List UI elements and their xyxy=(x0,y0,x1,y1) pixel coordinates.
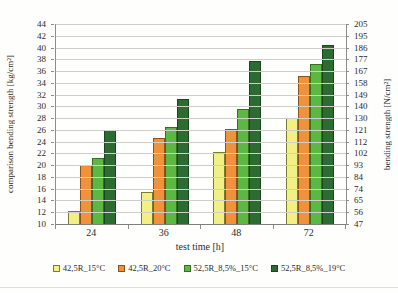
legend-label: 42,5R_20°C xyxy=(128,264,170,273)
right-y-tick-label: 74 xyxy=(354,184,363,193)
right-y-tick-mark xyxy=(346,212,349,213)
right-y-tick-mark xyxy=(346,165,349,166)
right-y-tick-label: 102 xyxy=(354,149,368,158)
gridline xyxy=(56,212,346,213)
gridline xyxy=(56,59,346,60)
left-y-axis: 444240383634323028262422201816141210 xyxy=(0,24,55,224)
gridline xyxy=(56,189,346,190)
left-y-tick-label: 36 xyxy=(37,67,46,76)
left-y-tick-label: 30 xyxy=(37,102,46,111)
bar-group xyxy=(129,24,202,224)
legend-label: 42,5R_15°C xyxy=(63,264,105,273)
right-y-tick-mark xyxy=(346,71,349,72)
x-category-label: 24 xyxy=(55,228,128,238)
x-axis-category-labels: 24364872 xyxy=(55,228,345,238)
right-y-tick-label: 93 xyxy=(354,161,363,170)
bar xyxy=(286,118,298,224)
gridline xyxy=(56,95,346,96)
legend-label: 52,5R_8,5%_15°C xyxy=(194,264,258,273)
right-y-tick-mark xyxy=(346,189,349,190)
left-y-tick-label: 18 xyxy=(37,172,46,181)
right-y-axis: 2051951861771671581491401301211121029384… xyxy=(346,24,398,224)
bar xyxy=(141,192,153,224)
x-axis-title: test time [h] xyxy=(55,242,345,252)
x-category-label: 36 xyxy=(128,228,201,238)
scan-artifact-line xyxy=(0,287,398,288)
x-category-label: 72 xyxy=(273,228,346,238)
right-y-tick-mark xyxy=(346,59,349,60)
bar xyxy=(237,109,249,224)
legend-label: 52,5R_8,5%_19°C xyxy=(281,264,345,273)
left-y-tick-mark xyxy=(51,212,54,213)
right-y-tick-mark xyxy=(346,224,349,225)
right-y-tick-label: 149 xyxy=(354,90,368,99)
right-y-tick-label: 205 xyxy=(354,20,368,29)
left-y-tick-label: 20 xyxy=(37,161,46,170)
left-y-tick-mark xyxy=(51,71,54,72)
bar-group xyxy=(201,24,274,224)
right-y-tick-mark xyxy=(346,95,349,96)
right-y-tick-label: 56 xyxy=(354,208,363,217)
x-axis-tick-mark xyxy=(128,225,129,229)
x-axis-tick-mark xyxy=(200,225,201,229)
left-y-tick-mark xyxy=(51,200,54,201)
left-y-tick-mark xyxy=(51,177,54,178)
left-y-tick-label: 10 xyxy=(37,220,46,229)
right-y-tick-mark xyxy=(346,153,349,154)
gridline xyxy=(56,48,346,49)
right-y-tick-label: 112 xyxy=(354,137,367,146)
gridline xyxy=(56,130,346,131)
left-y-tick-mark xyxy=(51,24,54,25)
left-y-tick-mark xyxy=(51,130,54,131)
bar xyxy=(298,76,310,224)
left-y-tick-mark xyxy=(51,95,54,96)
gridline xyxy=(56,83,346,84)
right-y-tick-mark xyxy=(346,200,349,201)
left-y-tick-mark xyxy=(51,118,54,119)
gridline xyxy=(56,153,346,154)
left-y-tick-mark xyxy=(51,189,54,190)
gridline xyxy=(56,71,346,72)
x-category-label: 48 xyxy=(200,228,273,238)
x-axis-tick-mark xyxy=(55,225,56,229)
gridline xyxy=(56,165,346,166)
left-y-tick-mark xyxy=(51,59,54,60)
left-y-tick-label: 28 xyxy=(37,114,46,123)
left-y-tick-label: 34 xyxy=(37,78,46,87)
gridline xyxy=(56,118,346,119)
right-y-tick-label: 158 xyxy=(354,78,368,87)
gridline xyxy=(56,142,346,143)
chart-figure: comparison bending strength [kg/cm²] ben… xyxy=(0,0,398,293)
left-y-tick-label: 22 xyxy=(37,149,46,158)
bar-group xyxy=(274,24,347,224)
legend-swatch xyxy=(184,265,191,272)
left-y-tick-label: 24 xyxy=(37,137,46,146)
right-y-tick-mark xyxy=(346,83,349,84)
gridline xyxy=(56,177,346,178)
right-y-tick-label: 167 xyxy=(354,67,368,76)
legend: 42,5R_15°C42,5R_20°C52,5R_8,5%_15°C52,5R… xyxy=(0,264,398,273)
left-y-tick-mark xyxy=(51,153,54,154)
bar xyxy=(80,165,92,224)
bar-group xyxy=(56,24,129,224)
left-y-tick-label: 14 xyxy=(37,196,46,205)
gridline xyxy=(56,36,346,37)
right-y-tick-mark xyxy=(346,36,349,37)
left-y-tick-mark xyxy=(51,106,54,107)
right-y-tick-mark xyxy=(346,48,349,49)
right-y-tick-label: 140 xyxy=(354,102,368,111)
left-y-tick-label: 12 xyxy=(37,208,46,217)
bar-groups xyxy=(56,24,346,224)
left-y-tick-mark xyxy=(51,36,54,37)
left-y-tick-mark xyxy=(51,224,54,225)
legend-swatch xyxy=(53,265,60,272)
gridline xyxy=(56,200,346,201)
gridline xyxy=(56,24,346,25)
right-y-tick-label: 47 xyxy=(354,220,363,229)
left-y-tick-mark xyxy=(51,142,54,143)
left-y-tick-label: 44 xyxy=(37,20,46,29)
legend-item: 42,5R_15°C xyxy=(53,264,105,273)
right-y-tick-label: 84 xyxy=(354,172,363,181)
left-y-tick-mark xyxy=(51,83,54,84)
right-y-tick-mark xyxy=(346,118,349,119)
